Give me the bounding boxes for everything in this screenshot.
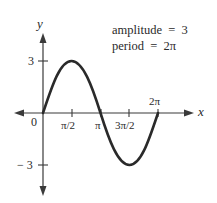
x-axis-label: x [198, 105, 204, 118]
x-axis-left-arrow-icon [14, 110, 24, 117]
y-tick-label-neg3: − 3 [17, 159, 33, 171]
x-axis-right-arrow-icon [184, 110, 194, 117]
period-annotation: period = 2π [112, 40, 176, 53]
amplitude-annotation: amplitude = 3 [112, 24, 188, 37]
y-axis-label: y [37, 17, 43, 30]
y-axis-down-arrow-icon [40, 186, 47, 196]
x-tick-label-pi-half: π/2 [61, 120, 75, 131]
x-tick-label-two-pi: 2π [149, 96, 160, 107]
y-axis-up-arrow-icon [40, 33, 47, 43]
origin-label: 0 [31, 116, 37, 128]
x-tick-label-three-pi-half: 3π/2 [115, 120, 135, 131]
y-tick-label-3: 3 [28, 55, 34, 67]
x-tick-label-pi: π [95, 120, 101, 131]
